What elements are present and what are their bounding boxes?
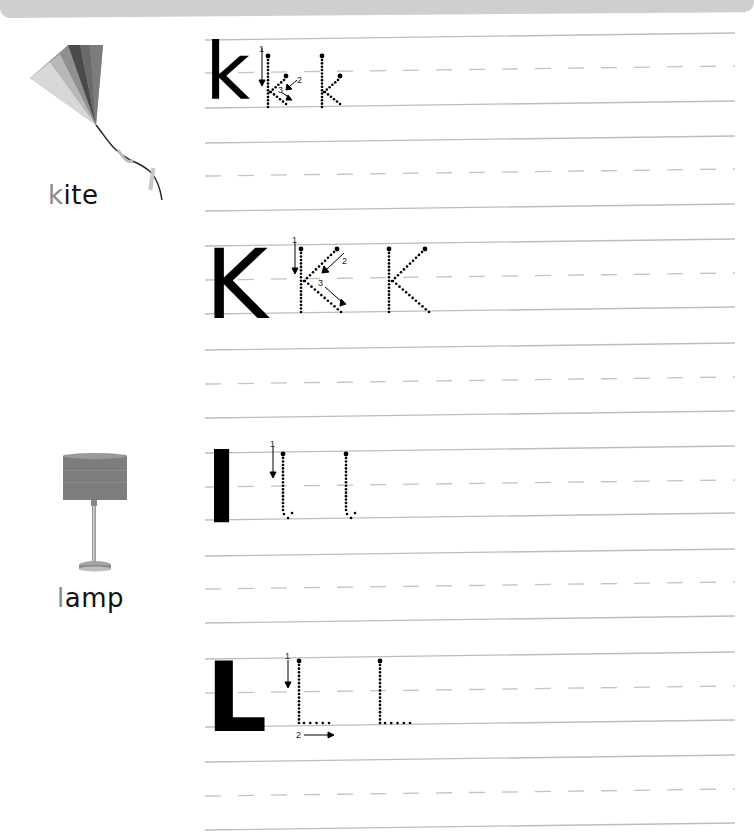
svg-text:1: 1 — [259, 44, 264, 54]
model-letter-k: k — [205, 33, 250, 111]
stroke-numbers: 1 2 3 1 2 3 1 1 2 — [259, 44, 347, 740]
kite-icon — [30, 45, 162, 200]
svg-text:2: 2 — [296, 730, 301, 740]
svg-text:3: 3 — [278, 85, 283, 95]
word-label-lamp: lamp — [57, 583, 124, 613]
word-label-kite: kite — [48, 180, 98, 210]
svg-text:1: 1 — [270, 439, 275, 449]
model-letter-l: l — [207, 441, 237, 537]
word-rest: ite — [64, 180, 99, 210]
svg-text:2: 2 — [297, 75, 302, 85]
svg-text:2: 2 — [342, 256, 347, 266]
model-letter-K-upper: K — [205, 237, 268, 333]
lamp-icon — [63, 453, 127, 572]
svg-text:1: 1 — [285, 651, 290, 661]
word-first-letter: l — [57, 583, 65, 613]
stroke-direction-arrows — [259, 48, 346, 738]
svg-text:1: 1 — [292, 235, 297, 245]
word-first-letter: k — [48, 180, 64, 210]
word-rest: amp — [65, 583, 124, 613]
svg-text:3: 3 — [318, 278, 323, 288]
handwriting-ruled-lines: 1 2 3 1 2 3 1 1 2 — [0, 0, 754, 834]
model-letter-L-upper: L — [206, 650, 267, 746]
